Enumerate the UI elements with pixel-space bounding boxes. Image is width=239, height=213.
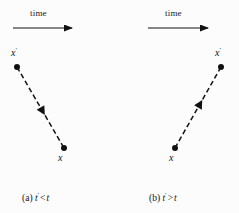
caption-b-tag: (b) [149, 193, 160, 203]
event-dot-x-prime-b [218, 64, 224, 70]
panel-b-graphics [120, 0, 239, 213]
caption-b-rhs: t [174, 193, 177, 203]
panel-a-graphics [0, 0, 119, 213]
worldline-arrowhead-b [194, 98, 206, 110]
figure-container: time x′ x (a) t′<t time [0, 0, 239, 213]
worldline-arrowhead-a [37, 105, 49, 117]
caption-b-relation: > [167, 193, 174, 203]
caption-b: (b) t′>t [149, 191, 177, 203]
point-label-x-b-text: x [169, 152, 173, 163]
panel-b: time x x′ (b) t′>t [120, 0, 239, 213]
event-dot-x-a [61, 145, 67, 151]
point-label-x-a-text: x [58, 152, 62, 163]
point-label-x-a: x [58, 152, 62, 163]
worldline-b [175, 67, 221, 148]
caption-a-tag: (a) [22, 193, 33, 203]
panel-a: time x′ x (a) t′<t [0, 0, 119, 213]
caption-a-rhs: t [46, 193, 49, 203]
point-label-x-prime-a: x′ [11, 46, 17, 58]
point-label-x-b: x [169, 152, 173, 163]
caption-a: (a) t′<t [22, 191, 49, 203]
point-label-x-prime-b-mark: ′ [219, 46, 221, 54]
point-label-x-prime-a-mark: ′ [15, 46, 17, 54]
event-dot-x-b [172, 145, 178, 151]
event-dot-x-prime-a [14, 64, 20, 70]
point-label-x-prime-b: x′ [215, 46, 221, 58]
